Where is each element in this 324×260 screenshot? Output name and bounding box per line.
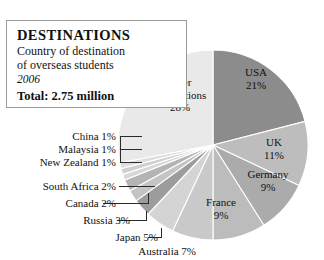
total-label: Total: 2.75 million <box>17 87 186 105</box>
slice-label-germany: Germany 9% <box>237 168 299 193</box>
leader-line-canada-riser <box>148 193 149 204</box>
leader-line-south-africa <box>119 186 155 187</box>
slice-label-uk-name: UK <box>250 136 298 149</box>
leader-line-japan-riser <box>161 228 162 238</box>
slice-label-russia: Russia 3% <box>0 214 130 227</box>
slice-label-uk: UK 11% <box>250 136 298 161</box>
leader-line-russia-riser <box>146 211 147 221</box>
slice-label-france-pct: 9% <box>196 209 246 222</box>
slice-label-canada: Canada 2% <box>0 197 116 210</box>
slice-label-usa: USA 21% <box>228 66 284 91</box>
slice-label-malaysia: Malaysia 1% <box>0 143 116 156</box>
slice-label-france: France 9% <box>196 196 246 221</box>
slice-label-japan: Japan 5% <box>0 231 158 244</box>
leader-line-malaysia <box>120 149 142 150</box>
slice-label-usa-pct: 21% <box>228 79 284 92</box>
leader-line-new-zealand <box>120 162 142 163</box>
year-label: 2006 <box>17 72 186 87</box>
leader-line-china <box>120 136 142 137</box>
page-title: DESTINATIONS <box>17 27 186 44</box>
slice-label-uk-pct: 11% <box>250 149 298 162</box>
slice-label-new-zealand: New Zealand 1% <box>0 156 116 169</box>
slice-label-south-africa: South Africa 2% <box>0 180 116 193</box>
slice-label-germany-name: Germany <box>237 168 299 181</box>
pie-chart-figure: DESTINATIONS Country of destination of o… <box>0 0 324 260</box>
slice-label-france-name: France <box>196 196 246 209</box>
title-card: DESTINATIONS Country of destination of o… <box>6 20 187 108</box>
slice-label-germany-pct: 9% <box>237 181 299 194</box>
slice-label-usa-name: USA <box>228 66 284 79</box>
slice-label-china: China 1% <box>0 130 116 143</box>
subtitle-line-1: Country of destination <box>17 44 186 58</box>
slice-label-australia: Australia 7% <box>0 245 196 258</box>
subtitle-line-2: of overseas students <box>17 58 186 72</box>
